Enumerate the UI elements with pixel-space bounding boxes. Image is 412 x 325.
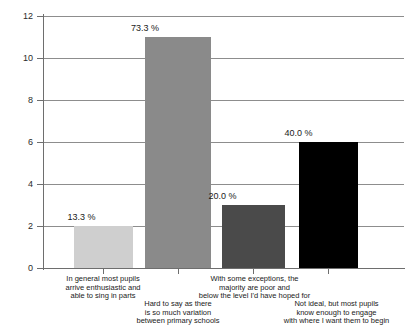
bar-0 — [74, 226, 133, 268]
plot-area — [43, 16, 404, 268]
y-tick-label-10: 10 — [0, 54, 33, 63]
y-axis-line — [43, 14, 44, 270]
bar-value-2: 20.0 % — [185, 192, 260, 201]
bar-2 — [222, 205, 285, 268]
y-tick-mark-0 — [37, 268, 43, 269]
category-label-2: With some exceptions, the majority are p… — [198, 275, 311, 301]
y-tick-label-6: 6 — [0, 138, 33, 147]
y-tick-mark-4 — [37, 184, 43, 185]
x-tick-mark-1 — [178, 269, 179, 274]
category-label-0: In general most pupils arrive enthusiast… — [57, 275, 149, 301]
x-tick-mark-3 — [328, 269, 329, 274]
clipped-footer-text — [0, 318, 412, 325]
y-tick-mark-6 — [37, 142, 43, 143]
y-tick-label-4: 4 — [0, 180, 33, 189]
y-tick-label-12: 12 — [0, 12, 33, 21]
bar-chart: 12 10 8 6 4 2 0 13.3 % 73.3 % 20.0 % 40.… — [0, 0, 412, 325]
y-tick-mark-8 — [37, 100, 43, 101]
y-tick-label-8: 8 — [0, 96, 33, 105]
bar-value-3: 40.0 % — [261, 129, 336, 138]
gridline-12 — [43, 16, 404, 17]
x-axis-line — [43, 268, 405, 269]
gridline-8 — [43, 100, 404, 101]
bar-3 — [299, 142, 358, 268]
bar-value-1: 73.3 % — [107, 24, 183, 33]
y-tick-label-2: 2 — [0, 222, 33, 231]
y-tick-mark-10 — [37, 58, 43, 59]
y-tick-label-0: 0 — [0, 264, 33, 273]
bar-value-0: 13.3 % — [44, 213, 119, 222]
gridline-10 — [43, 58, 404, 59]
y-tick-mark-12 — [37, 16, 43, 17]
bar-1 — [145, 37, 211, 268]
y-tick-mark-2 — [37, 226, 43, 227]
